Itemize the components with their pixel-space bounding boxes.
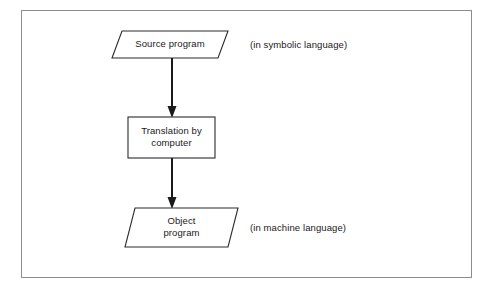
node-shape-translation-by-computer[interactable] [128, 117, 215, 158]
node-shape-object-program[interactable] [125, 208, 238, 247]
node-shape-source-program[interactable] [112, 31, 228, 58]
arrow-source-to-translation-head [168, 106, 177, 118]
arrow-translation-to-object-head [168, 197, 177, 209]
annotation-machine-language: (in machine language) [250, 222, 346, 234]
flowchart-canvas [0, 0, 492, 293]
annotation-symbolic-language: (in symbolic language) [250, 39, 347, 51]
figure-root: Source program Translation by computer O… [0, 0, 492, 293]
